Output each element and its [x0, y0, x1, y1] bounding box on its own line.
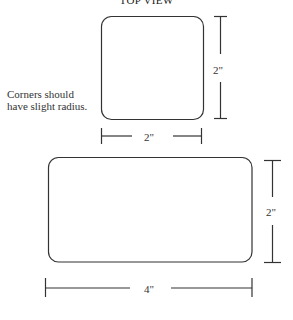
rectangle-width-label: 4"	[144, 283, 154, 295]
square-shape	[102, 17, 204, 120]
rectangle-height-label: 2"	[266, 206, 276, 218]
square-height-label: 2"	[213, 64, 223, 76]
dimension-drawing	[0, 0, 293, 320]
square-width-label: 2"	[144, 131, 154, 143]
rectangle-shape	[49, 158, 253, 263]
